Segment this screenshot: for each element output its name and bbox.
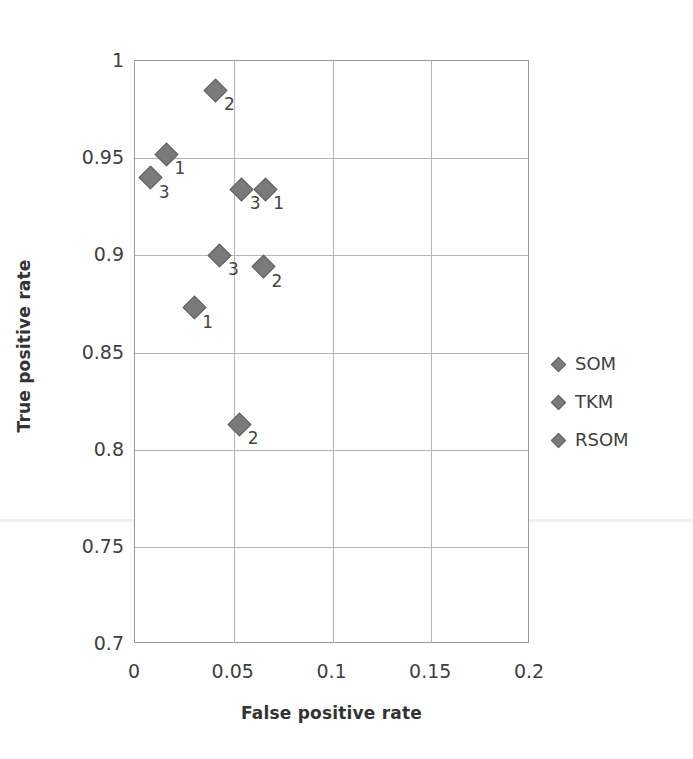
gridline-vertical <box>234 61 235 642</box>
scatter-chart-figure: 123123123 10.950.90.850.80.750.7 00.050.… <box>0 0 693 759</box>
gridline-horizontal <box>135 158 528 159</box>
y-axis-tick-labels: 10.950.90.850.80.750.7 <box>50 0 124 759</box>
data-point-label: 3 <box>159 184 170 201</box>
data-point-label: 3 <box>250 195 261 212</box>
y-axis-tick-label: 0.75 <box>82 537 124 556</box>
gridline-horizontal <box>135 547 528 548</box>
x-axis-tick-label: 0.2 <box>514 662 544 681</box>
legend-item: SOM <box>553 345 673 383</box>
legend-label: SOM <box>575 355 616 373</box>
legend-label: TKM <box>575 393 613 411</box>
x-axis-tick-labels: 00.050.10.150.2 <box>0 662 693 692</box>
x-axis-tick-label: 0.1 <box>316 662 346 681</box>
gridline-horizontal <box>135 450 528 451</box>
legend-diamond-icon <box>551 356 567 372</box>
legend-diamond-icon <box>551 394 567 410</box>
x-axis-tick-label: 0.15 <box>409 662 451 681</box>
data-point-label: 2 <box>271 273 282 290</box>
data-point-label: 2 <box>224 96 235 113</box>
gridline-horizontal <box>135 255 528 256</box>
legend-diamond-icon <box>551 432 567 448</box>
data-point-label: 2 <box>248 430 259 447</box>
x-axis-tick-label: 0 <box>128 662 140 681</box>
data-point-label: 1 <box>273 195 284 212</box>
data-point-label: 1 <box>202 314 213 331</box>
plot-area: 123123123 <box>134 60 529 643</box>
legend-label: RSOM <box>575 431 629 449</box>
chart-legend: SOMTKMRSOM <box>553 345 673 459</box>
y-axis-tick-label: 1 <box>112 51 124 70</box>
x-axis-title: False positive rate <box>134 703 529 723</box>
y-axis-tick-label: 0.85 <box>82 343 124 362</box>
data-point-label: 3 <box>228 261 239 278</box>
x-axis-tick-label: 0.05 <box>212 662 254 681</box>
y-axis-tick-label: 0.7 <box>94 634 124 653</box>
gridline-vertical <box>333 61 334 642</box>
y-axis-tick-label: 0.9 <box>94 245 124 264</box>
y-axis-tick-label: 0.95 <box>82 148 124 167</box>
legend-item: TKM <box>553 383 673 421</box>
legend-item: RSOM <box>553 421 673 459</box>
y-axis-title: True positive rate <box>14 236 34 456</box>
y-axis-tick-label: 0.8 <box>94 440 124 459</box>
gridline-vertical <box>431 61 432 642</box>
data-point-label: 1 <box>175 160 186 177</box>
gridline-horizontal <box>135 353 528 354</box>
